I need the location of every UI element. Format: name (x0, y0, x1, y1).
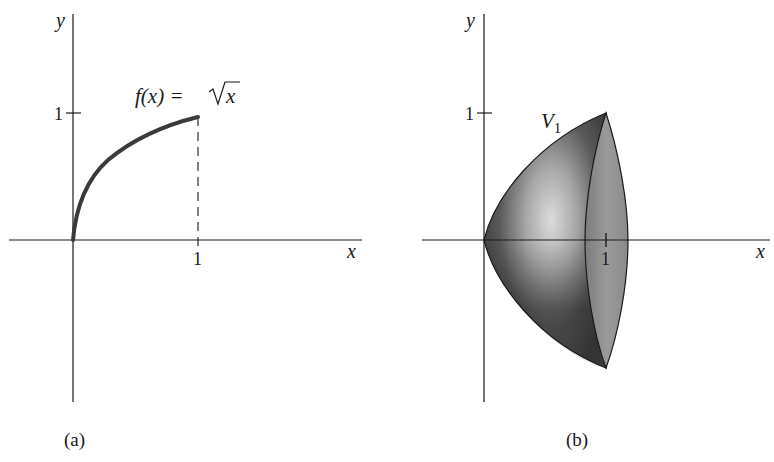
function-label: f(x) = (135, 84, 184, 108)
caption-b: (b) (566, 429, 588, 451)
y-axis-label-a: y (54, 9, 65, 32)
figure: y 1 1 x f(x) = x (a) y 1 1 x V1 (b) (0, 0, 774, 462)
x-axis-label-b: x (755, 240, 765, 262)
function-label-left: f(x) = (135, 84, 184, 108)
function-label-sqrt-arg: x (225, 84, 236, 108)
caption-a: (a) (64, 429, 85, 451)
solid-label: V1 (541, 109, 561, 136)
y-tick-label-b: 1 (465, 104, 474, 124)
panel-a: y 1 1 x f(x) = x (a) (9, 9, 362, 451)
sqrt-curve (73, 117, 198, 240)
panel-b: y 1 1 x V1 (b) (422, 9, 770, 451)
x-tick-label-a: 1 (193, 249, 202, 269)
y-axis-label-b: y (464, 9, 475, 32)
x-axis-label-a: x (346, 240, 356, 262)
x-tick-label-b: 1 (601, 249, 610, 269)
sqrt-sign-icon (209, 82, 240, 104)
solid-label-subscript: 1 (554, 120, 562, 136)
y-tick-label-a: 1 (54, 104, 63, 124)
paraboloid-lower-shade (484, 240, 600, 368)
